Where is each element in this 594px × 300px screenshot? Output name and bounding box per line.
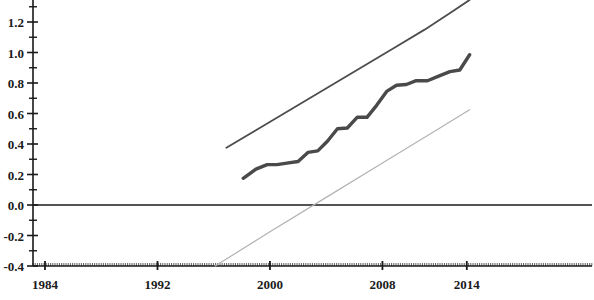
y-axis-tick-label: 0.2 — [0, 168, 24, 181]
y-axis-tick-label: 0.0 — [0, 199, 24, 212]
chart-plot-area — [0, 0, 594, 300]
y-axis-tick-label: 0.4 — [0, 138, 24, 151]
x-axis-tick-label: 1984 — [32, 278, 58, 291]
y-axis-tick-label: 1.2 — [0, 16, 24, 29]
y-axis-tick-label: -0.2 — [0, 229, 24, 242]
y-axis-tick-label: 0.6 — [0, 107, 24, 120]
x-axis-tick-label: 2008 — [369, 278, 395, 291]
chart-container: -0.4-0.20.00.20.40.60.81.01.21.419841992… — [0, 0, 594, 300]
x-axis-tick-label: 2014 — [454, 278, 480, 291]
x-axis-hatching — [33, 263, 592, 266]
x-axis-tick-label: 2000 — [257, 278, 283, 291]
x-axis-tick-label: 1992 — [144, 278, 170, 291]
series-line-lower-bound — [215, 110, 469, 266]
y-axis-tick-label: -0.4 — [0, 260, 24, 273]
y-axis-tick-label: 0.8 — [0, 77, 24, 90]
y-axis-tick-label: 1.0 — [0, 46, 24, 59]
